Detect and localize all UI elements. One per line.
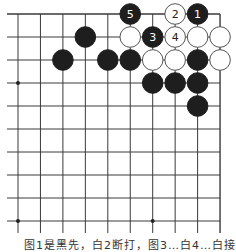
svg-text:3: 3: [149, 31, 156, 44]
black-stone: [187, 73, 208, 94]
svg-text:5: 5: [127, 8, 134, 21]
black-stone-1: 1: [187, 4, 208, 25]
black-stone: [165, 73, 186, 94]
black-stone: [187, 50, 208, 71]
black-stone-5: 5: [120, 4, 141, 25]
white-stone: [165, 50, 186, 71]
white-stone: [142, 50, 163, 71]
white-stone: [187, 27, 208, 48]
white-stone-4: 4: [165, 27, 186, 48]
black-stone: [53, 50, 74, 71]
star-point: [16, 219, 20, 223]
black-stone-3: 3: [142, 27, 163, 48]
star-point: [16, 81, 20, 85]
white-stone: [120, 27, 141, 48]
svg-text:2: 2: [172, 8, 179, 21]
black-stone: [75, 27, 96, 48]
black-stone: [187, 96, 208, 117]
white-stone: [210, 27, 231, 48]
diagram-caption: 图1是黑先，白2断打，图3…白4…白接: [24, 236, 236, 252]
white-stone: [210, 50, 231, 71]
grid-lines: [7, 14, 220, 233]
black-stone: [142, 73, 163, 94]
black-stone: [120, 50, 141, 71]
svg-text:4: 4: [172, 31, 179, 44]
white-stone-2: 2: [165, 4, 186, 25]
black-stone: [98, 50, 119, 71]
svg-text:1: 1: [194, 8, 201, 21]
star-point: [151, 219, 155, 223]
